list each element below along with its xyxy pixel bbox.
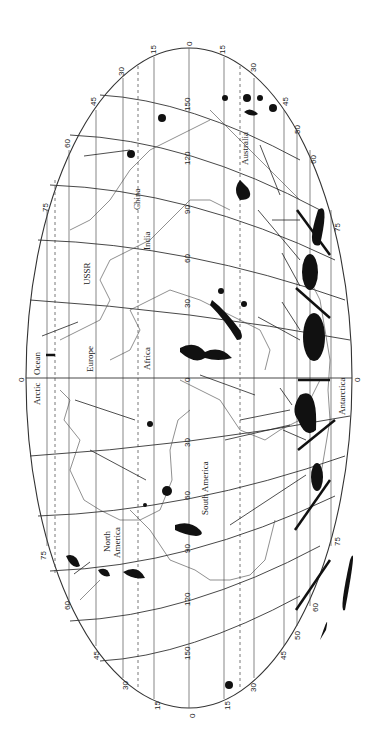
svg-text:15: 15 (149, 45, 158, 54)
bottom-edge-labels: 0 15 30 45 60 75 15 30 45 50 60 75 (39, 537, 342, 718)
label-china: China (132, 188, 142, 210)
label-india: India (142, 232, 152, 251)
svg-text:15: 15 (153, 701, 162, 710)
svg-text:120: 120 (183, 151, 192, 165)
svg-text:15: 15 (223, 701, 232, 710)
svg-text:90: 90 (183, 544, 192, 553)
label-south-america: South America (200, 461, 210, 515)
svg-text:45: 45 (92, 651, 101, 660)
meridian-labels: 30 60 90 120 150 0 30 60 90 120 150 (183, 97, 192, 660)
svg-text:120: 120 (183, 592, 192, 606)
label-arctic: Arctic (32, 383, 42, 406)
migration-arrows (42, 145, 306, 574)
svg-text:150: 150 (183, 646, 192, 660)
label-north: North (102, 531, 112, 552)
svg-text:30: 30 (121, 681, 130, 690)
svg-text:90: 90 (183, 205, 192, 214)
svg-text:30: 30 (183, 438, 192, 447)
svg-text:30: 30 (249, 683, 258, 692)
svg-text:45: 45 (281, 97, 290, 106)
svg-text:150: 150 (183, 97, 192, 111)
svg-text:0: 0 (183, 377, 192, 382)
svg-text:45: 45 (279, 651, 288, 660)
svg-text:30: 30 (249, 63, 258, 72)
label-america: America (112, 527, 122, 558)
svg-text:60: 60 (63, 601, 72, 610)
svg-text:45: 45 (89, 97, 98, 106)
svg-text:50: 50 (293, 125, 302, 134)
svg-text:60: 60 (63, 139, 72, 148)
svg-text:15: 15 (218, 45, 227, 54)
world-map: 0 15 30 45 60 75 15 30 45 50 60 75 0 15 … (0, 0, 384, 740)
label-australia: Australia (240, 132, 250, 165)
svg-text:0: 0 (185, 41, 194, 46)
svg-text:75: 75 (41, 203, 50, 212)
svg-text:0: 0 (188, 713, 197, 718)
svg-text:75: 75 (333, 223, 342, 232)
svg-text:60: 60 (311, 603, 320, 612)
label-africa: Africa (142, 347, 152, 370)
svg-text:30: 30 (117, 67, 126, 76)
svg-text:30: 30 (183, 299, 192, 308)
svg-text:75: 75 (39, 551, 48, 560)
left-zero-label: 0 (17, 377, 26, 382)
svg-text:60: 60 (183, 491, 192, 500)
svg-text:60: 60 (309, 155, 318, 164)
label-antarctica: Antarctica (337, 378, 347, 415)
right-zero-label: 0 (353, 377, 362, 382)
label-ussr: USSR (82, 262, 92, 285)
svg-text:60: 60 (183, 254, 192, 263)
svg-text:50: 50 (293, 631, 302, 640)
label-europe: Europe (85, 346, 95, 372)
svg-text:75: 75 (333, 537, 342, 546)
label-ocean: Ocean (32, 352, 42, 375)
